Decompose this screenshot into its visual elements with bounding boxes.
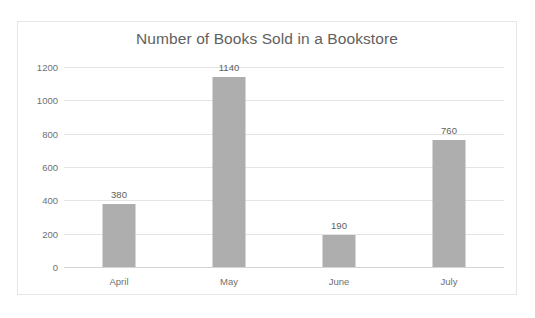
y-axis-tick-labels: 020040060080010001200	[18, 67, 58, 267]
x-axis-category-label: June	[329, 276, 350, 287]
y-axis-tick-label: 1000	[18, 95, 58, 106]
y-axis-tick-label: 0	[18, 262, 58, 273]
bar-value-label: 190	[331, 220, 347, 231]
y-axis-tick-label: 600	[18, 162, 58, 173]
bar-group: 1140May	[174, 67, 284, 267]
bar	[103, 204, 136, 267]
gridline	[64, 267, 504, 268]
plot-area: 020040060080010001200 380April1140May190…	[64, 67, 504, 267]
bar-value-label: 1140	[219, 62, 239, 73]
bar	[213, 77, 246, 267]
bar	[323, 235, 356, 267]
x-axis-category-label: May	[220, 276, 238, 287]
bar-value-label: 380	[111, 189, 127, 200]
bar-group: 760July	[394, 67, 504, 267]
chart-container: Number of Books Sold in a Bookstore 0200…	[17, 21, 517, 295]
x-axis-category-label: April	[109, 276, 128, 287]
x-axis-category-label: July	[441, 276, 458, 287]
y-axis-tick-label: 800	[18, 128, 58, 139]
bar	[433, 140, 466, 267]
y-axis-tick-label: 1200	[18, 62, 58, 73]
y-axis-tick-label: 200	[18, 228, 58, 239]
bar-value-label: 760	[441, 125, 457, 136]
chart-title: Number of Books Sold in a Bookstore	[18, 30, 516, 48]
y-axis-tick-label: 400	[18, 195, 58, 206]
bar-group: 380April	[64, 67, 174, 267]
bar-group: 190June	[284, 67, 394, 267]
